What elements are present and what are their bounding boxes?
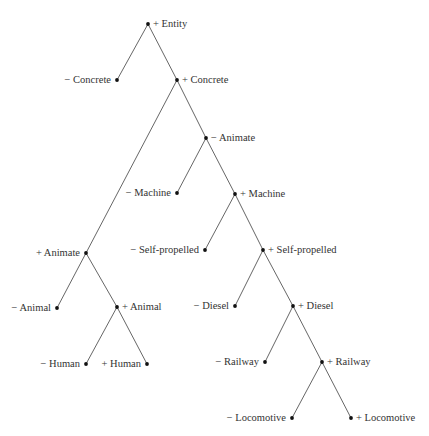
node-label-neg-diesel: − Diesel: [194, 300, 229, 312]
tree-edge: [235, 194, 263, 250]
node-label-pos-locomotive: + Locomotive: [356, 412, 415, 424]
node-dot-neg-human: [84, 362, 88, 366]
node-label-neg-self-propelled: − Self-propelled: [130, 244, 199, 256]
node-label-neg-human: − Human: [41, 358, 80, 370]
node-dot-neg-machine: [175, 191, 179, 195]
node-dot-pos-human: [145, 362, 149, 366]
node-dot-pos-diesel: [291, 304, 295, 308]
node-label-entity: + Entity: [153, 18, 187, 30]
node-label-neg-locomotive: − Locomotive: [227, 412, 286, 424]
tree-edge: [148, 24, 177, 80]
tree-edge: [86, 80, 177, 253]
node-dot-neg-self-propelled: [203, 248, 207, 252]
node-dot-neg-railway: [263, 360, 267, 364]
tree-edge: [206, 138, 235, 194]
tree-edge: [205, 194, 235, 250]
node-label-pos-human: + Human: [102, 358, 141, 370]
tree-edge: [265, 306, 293, 362]
node-label-neg-animate: − Animate: [211, 132, 255, 144]
node-dot-pos-animate: [84, 251, 88, 255]
node-dot-pos-animal: [115, 305, 119, 309]
node-dot-neg-locomotive: [290, 416, 294, 420]
tree-edge: [292, 362, 322, 418]
node-dot-neg-concrete: [115, 78, 119, 82]
node-label-neg-railway: − Railway: [215, 356, 259, 368]
tree-edge: [57, 253, 86, 308]
node-dot-pos-concrete: [175, 78, 179, 82]
tree-edge: [293, 306, 322, 362]
node-label-neg-machine: − Machine: [126, 187, 171, 199]
node-label-pos-machine: + Machine: [240, 188, 285, 200]
tree-edge: [86, 253, 117, 307]
node-dot-pos-locomotive: [349, 416, 353, 420]
tree-edge: [177, 138, 206, 193]
node-label-pos-concrete: + Concrete: [182, 74, 228, 86]
node-label-neg-concrete: − Concrete: [65, 74, 111, 86]
node-dot-neg-animal: [55, 306, 59, 310]
node-label-pos-self-propelled: + Self-propelled: [268, 244, 337, 256]
node-dot-neg-animate: [204, 136, 208, 140]
tree-edges-canvas: [0, 0, 429, 436]
node-label-neg-animal: − Animal: [12, 302, 51, 314]
tree-edge: [263, 250, 293, 306]
node-dot-pos-railway: [320, 360, 324, 364]
node-dot-neg-diesel: [233, 304, 237, 308]
node-dot-pos-self-propelled: [261, 248, 265, 252]
tree-edge: [86, 307, 117, 364]
tree-edge: [235, 250, 263, 306]
node-dot-pos-machine: [233, 192, 237, 196]
node-label-pos-animate: + Animate: [36, 247, 80, 259]
node-label-pos-diesel: + Diesel: [298, 300, 333, 312]
node-dot-entity: [146, 22, 150, 26]
tree-edge: [322, 362, 351, 418]
tree-edge: [117, 24, 148, 80]
tree-edge: [117, 307, 147, 364]
node-label-pos-animal: + Animal: [122, 301, 161, 313]
node-label-pos-railway: + Railway: [327, 356, 371, 368]
tree-edge: [177, 80, 206, 138]
